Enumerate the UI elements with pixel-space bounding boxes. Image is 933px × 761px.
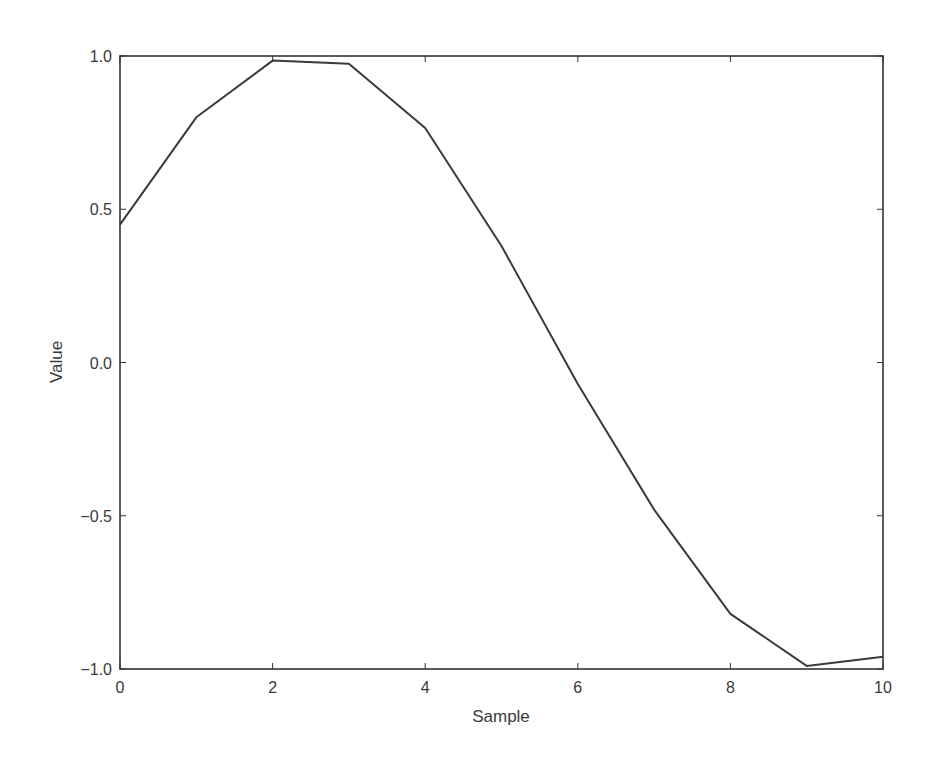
x-tick-label: 2 <box>268 679 277 696</box>
x-tick-label: 8 <box>726 679 735 696</box>
data-line <box>120 61 883 666</box>
y-axis-label: Value <box>47 341 66 383</box>
y-tick-label: −0.5 <box>80 508 112 525</box>
plot-area: 0246810 1.00.50.0−0.5−1.0 <box>80 48 892 696</box>
x-axis-label: Sample <box>472 707 530 726</box>
x-tick-label: 6 <box>573 679 582 696</box>
x-tick-label: 10 <box>874 679 892 696</box>
y-tick-label: 0.5 <box>90 201 112 218</box>
y-tick-label: 0.0 <box>90 355 112 372</box>
line-chart: 0246810 1.00.50.0−0.5−1.0 Sample Value <box>0 0 933 761</box>
y-tick-label: 1.0 <box>90 48 112 65</box>
x-tick-label: 4 <box>421 679 430 696</box>
x-tick-label: 0 <box>116 679 125 696</box>
x-axis-ticks: 0246810 <box>116 56 892 696</box>
y-tick-label: −1.0 <box>80 661 112 678</box>
y-axis-ticks: 1.00.50.0−0.5−1.0 <box>80 48 883 678</box>
axes-frame <box>120 56 883 669</box>
